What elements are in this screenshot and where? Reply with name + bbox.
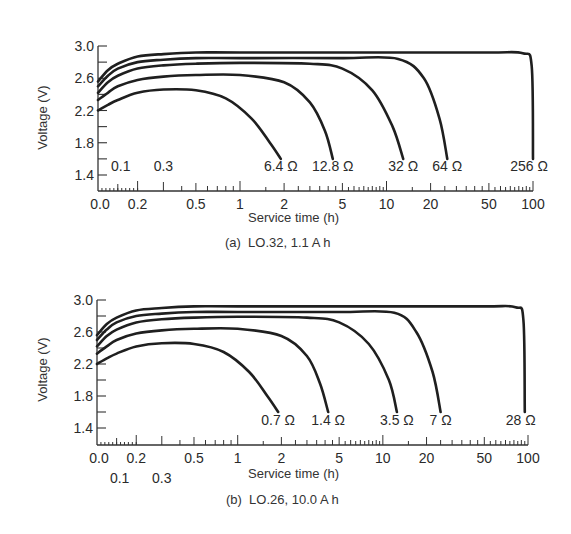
x-tick-label: 1 [234, 450, 242, 466]
x-tick-label: 0.5 [186, 196, 206, 212]
series-label: 3.5 Ω [380, 412, 414, 428]
series-line [97, 343, 278, 412]
x-extra-tick-label: 0.3 [154, 158, 174, 174]
series-label: 12.8 Ω [312, 158, 354, 174]
x-extra-tick-label: 0.3 [152, 470, 172, 486]
series-label: 1.4 Ω [311, 412, 345, 428]
series-line [98, 63, 403, 159]
x-tick-label: 0.2 [127, 450, 147, 466]
figure: 3.02.62.21.81.40.00.20.51251020501000.10… [0, 0, 571, 534]
x-axis-label-b: Service time (h) [248, 466, 339, 481]
x-tick-label: 0.2 [128, 196, 148, 212]
x-tick-label: 10 [379, 196, 395, 212]
chart-panel-a: 3.02.62.21.81.40.00.20.51251020501000.10… [0, 0, 571, 534]
series-line [98, 52, 533, 159]
y-axis-label-a: Voltage (V) [35, 78, 50, 158]
x-tick-label: 0.0 [90, 196, 110, 212]
x-tick-label: 20 [419, 450, 435, 466]
y-tick-label: 2.2 [74, 356, 94, 372]
y-tick-label: 1.8 [74, 388, 94, 404]
x-tick-label: 0.5 [184, 450, 204, 466]
series-label: 64 Ω [432, 158, 462, 174]
x-tick-label: 0.0 [89, 450, 109, 466]
chart-b: 3.02.62.21.81.40.00.20.51251020501000.10… [74, 292, 540, 486]
y-tick-label: 3.0 [74, 292, 94, 308]
chart-a: 3.02.62.21.81.40.00.20.51251020501000.10… [75, 38, 548, 212]
x-tick-label: 5 [335, 450, 343, 466]
x-axis-label-a: Service time (h) [248, 210, 339, 225]
series-line [98, 89, 281, 159]
caption-b: (b) LO.26, 10.0 A h [226, 492, 339, 507]
series-label: 7 Ω [430, 412, 452, 428]
x-tick-label: 100 [516, 450, 540, 466]
series-label: 0.7 Ω [261, 412, 295, 428]
caption-a: (a) LO.32, 1.1 A h [225, 235, 331, 250]
series-line [97, 306, 525, 412]
y-tick-label: 2.6 [75, 70, 95, 86]
series-label: 6.4 Ω [264, 158, 298, 174]
series-line [98, 57, 447, 159]
x-tick-label: 20 [423, 196, 439, 212]
x-tick-label: 50 [477, 450, 493, 466]
x-extra-tick-label: 0.1 [111, 158, 131, 174]
x-tick-label: 10 [375, 450, 391, 466]
x-tick-label: 5 [339, 196, 347, 212]
y-axis-label-b: Voltage (V) [35, 330, 50, 410]
y-tick-label: 1.4 [75, 167, 95, 183]
x-extra-tick-label: 0.1 [110, 470, 130, 486]
x-tick-label: 2 [277, 450, 285, 466]
x-tick-label: 1 [236, 196, 244, 212]
series-line [97, 328, 328, 412]
x-tick-label: 50 [481, 196, 497, 212]
x-tick-label: 100 [521, 196, 545, 212]
series-label: 28 Ω [506, 412, 536, 428]
series-line [97, 317, 397, 412]
y-tick-label: 1.8 [75, 135, 95, 151]
y-tick-label: 1.4 [74, 420, 94, 436]
series-label: 256 Ω [510, 158, 548, 174]
series-line [98, 74, 333, 158]
y-tick-label: 2.2 [75, 103, 95, 119]
y-tick-label: 3.0 [75, 38, 95, 54]
y-tick-label: 2.6 [74, 324, 94, 340]
series-label: 32 Ω [388, 158, 418, 174]
